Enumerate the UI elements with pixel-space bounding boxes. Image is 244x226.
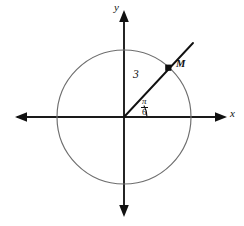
x-axis-label: x — [230, 108, 235, 119]
y-axis-down-arrow-icon — [119, 205, 129, 217]
angle-measure-label: π 6 — [141, 97, 148, 117]
x-axis-right-arrow-icon — [215, 112, 227, 122]
coordinate-plane-svg — [0, 0, 244, 226]
y-axis-up-arrow-icon — [119, 10, 129, 22]
point-m-label: M — [176, 59, 185, 70]
point-m-marker — [165, 65, 171, 71]
angle-denominator: 6 — [141, 108, 148, 117]
y-axis-label: y — [114, 2, 119, 13]
math-figure-canvas: y x M 3 π 6 — [0, 0, 244, 226]
x-axis-left-arrow-icon — [15, 112, 27, 122]
radius-length-label: 3 — [133, 69, 139, 81]
angle-numerator: π — [141, 97, 148, 106]
angle-fraction: π 6 — [141, 97, 148, 117]
